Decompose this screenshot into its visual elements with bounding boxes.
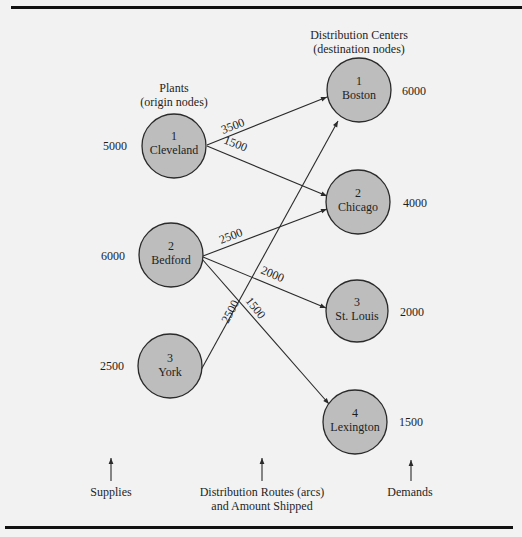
routes-label-line2: and Amount Shipped — [211, 499, 312, 513]
destination-node-chicago: 2 Chicago — [326, 170, 390, 234]
demands-label: Demands — [387, 485, 433, 499]
supply-bedford: 6000 — [101, 249, 125, 263]
node-name: Chicago — [338, 200, 378, 214]
amount-cleveland-chicago: 1500 — [222, 133, 249, 155]
dc-header: Distribution Centers — [310, 28, 408, 42]
demand-lexington: 1500 — [399, 415, 423, 429]
node-id: 1 — [356, 74, 362, 88]
dc-subheader: (destination nodes) — [313, 42, 405, 56]
bottom-rule — [5, 526, 513, 529]
supplies-label: Supplies — [90, 485, 132, 499]
amount-bedford-chicago: 2500 — [217, 225, 244, 247]
routes — [201, 97, 338, 404]
node-name: Lexington — [330, 420, 379, 434]
node-id: 3 — [167, 351, 173, 365]
node-name: Boston — [342, 88, 376, 102]
route-bedford-lexington — [202, 259, 329, 404]
routes-label-line1: Distribution Routes (arcs) — [200, 485, 325, 499]
origin-node-york: 3 York — [138, 334, 202, 398]
origin-node-bedford: 2 Bedford — [139, 223, 203, 287]
demand-stlouis: 2000 — [400, 305, 424, 319]
node-name: York — [158, 365, 181, 379]
transportation-network-diagram: Plants (origin nodes) Distribution Cente… — [0, 0, 522, 537]
node-id: 4 — [352, 406, 358, 420]
plants-subheader: (origin nodes) — [140, 95, 208, 109]
node-id: 2 — [168, 239, 174, 253]
demand-boston: 6000 — [402, 84, 426, 98]
node-id: 3 — [354, 295, 360, 309]
destination-node-boston: 1 Boston — [327, 58, 391, 122]
supply-york: 2500 — [100, 359, 124, 373]
top-rule — [11, 6, 522, 9]
demand-chicago: 4000 — [403, 196, 427, 210]
supply-cleveland: 5000 — [103, 139, 127, 153]
origin-node-cleveland: 1 Cleveland — [142, 114, 206, 178]
node-name: Bedford — [151, 253, 190, 267]
destination-node-stlouis: 3 St. Louis — [326, 280, 388, 342]
plants-header: Plants — [159, 81, 189, 95]
amount-cleveland-boston: 3500 — [219, 115, 246, 137]
node-id: 1 — [171, 129, 177, 143]
amount-bedford-lexington: 1500 — [243, 294, 269, 321]
node-id: 2 — [355, 186, 361, 200]
destination-node-lexington: 4 Lexington — [323, 390, 387, 454]
route-cleveland-chicago — [207, 146, 327, 196]
node-name: St. Louis — [335, 309, 379, 323]
node-name: Cleveland — [150, 143, 199, 157]
